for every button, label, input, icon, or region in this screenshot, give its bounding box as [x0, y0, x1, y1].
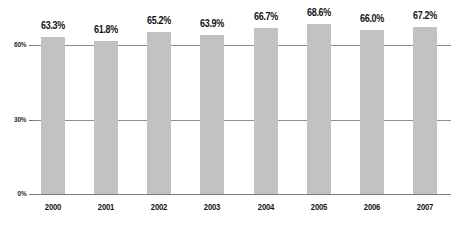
- x-axis-label-2004: 2004: [243, 202, 290, 212]
- x-axis-label-2002: 2002: [136, 202, 183, 212]
- bar-value-2007: 67.2%: [402, 10, 449, 21]
- y-axis-tick-label-30: 30%: [14, 115, 26, 124]
- x-axis-label-2001: 2001: [83, 202, 130, 212]
- bar-2003[interactable]: [200, 35, 224, 194]
- y-axis-tick-label-60: 60%: [14, 40, 26, 49]
- bar-value-2002: 65.2%: [136, 15, 183, 26]
- bar-value-2000: 63.3%: [30, 20, 77, 31]
- y-axis-tick-0: 0%: [0, 189, 26, 199]
- bar-2005[interactable]: [307, 24, 331, 194]
- y-axis-tick-60: 60%: [0, 40, 26, 50]
- y-axis-tick-30: 30%: [0, 115, 26, 125]
- bar-2007[interactable]: [413, 27, 437, 194]
- bar-value-2006: 66.0%: [349, 13, 396, 24]
- bar-2002[interactable]: [147, 32, 171, 194]
- x-axis-label-2005: 2005: [296, 202, 343, 212]
- y-axis-tick-label-0: 0%: [17, 189, 26, 198]
- bar-2001[interactable]: [94, 41, 118, 194]
- bar-value-2005: 68.6%: [296, 7, 343, 18]
- x-axis-label-2007: 2007: [402, 202, 449, 212]
- bar-chart: 60% 30% 0% 63.3% 61.8% 65.2% 63.9% 66.7%…: [0, 0, 459, 229]
- bar-value-2004: 66.7%: [243, 11, 290, 22]
- bar-2000[interactable]: [41, 37, 65, 194]
- x-axis-label-2000: 2000: [30, 202, 77, 212]
- x-axis-label-2006: 2006: [349, 202, 396, 212]
- x-axis-baseline: [29, 194, 451, 195]
- bar-value-2003: 63.9%: [189, 18, 236, 29]
- bar-2004[interactable]: [254, 28, 278, 194]
- x-axis-label-2003: 2003: [189, 202, 236, 212]
- bar-value-2001: 61.8%: [83, 24, 130, 35]
- bar-2006[interactable]: [360, 30, 384, 194]
